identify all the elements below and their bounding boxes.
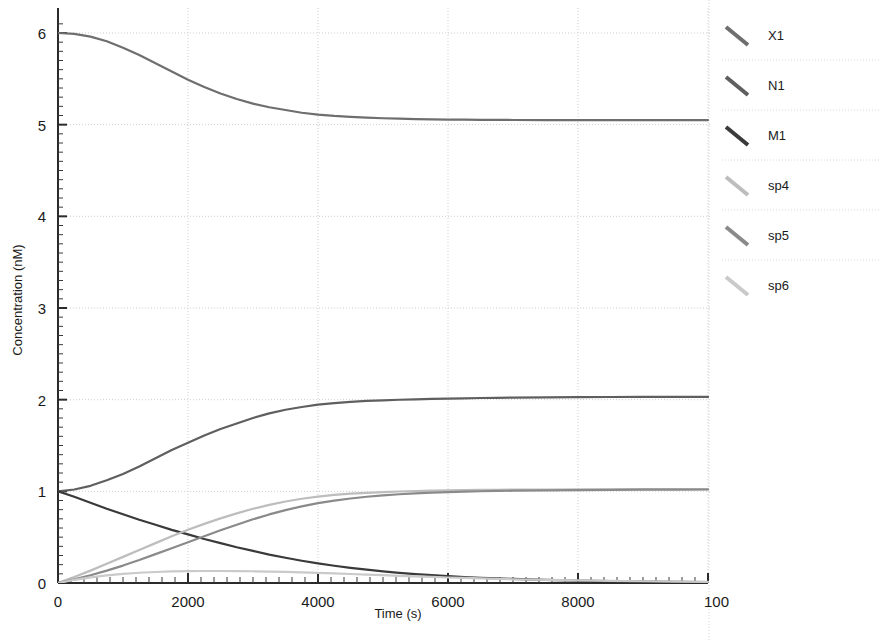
chart-page: 012345602000400060008000100 X1N1M1sp4sp5…	[0, 0, 894, 640]
concentration-time-plot: 012345602000400060008000100 X1N1M1sp4sp5…	[0, 0, 894, 640]
legend-label-X1: X1	[768, 28, 784, 43]
x-axis-tick-label: 100	[704, 593, 729, 610]
y-axis-tick-label: 0	[38, 575, 46, 592]
x-axis-tick-label: 8000	[561, 593, 594, 610]
page-background	[0, 0, 894, 640]
x-axis-tick-label: 6000	[431, 593, 464, 610]
y-axis-tick-label: 6	[38, 25, 46, 42]
legend-label-sp5: sp5	[768, 228, 789, 243]
legend-label-M1: M1	[768, 128, 786, 143]
x-axis-tick-label: 0	[54, 593, 62, 610]
legend-label-sp4: sp4	[768, 178, 789, 193]
y-axis-title: Concentration (nM)	[10, 244, 25, 355]
y-axis-tick-label: 2	[38, 392, 46, 409]
y-axis-tick-label: 5	[38, 117, 46, 134]
legend-label-sp6: sp6	[768, 278, 789, 293]
y-axis-tick-label: 3	[38, 300, 46, 317]
y-axis-tick-label: 1	[38, 483, 46, 500]
x-axis-tick-label: 4000	[301, 593, 334, 610]
x-axis-title: Time (s)	[374, 606, 421, 621]
x-axis-tick-label: 2000	[171, 593, 204, 610]
legend-label-N1: N1	[768, 78, 785, 93]
y-axis-tick-label: 4	[38, 208, 46, 225]
